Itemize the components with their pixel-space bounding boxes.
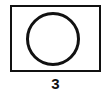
diagram-figure: 3 xyxy=(0,0,102,96)
figure-label: 3 xyxy=(10,75,101,93)
circle-icon xyxy=(26,12,80,66)
